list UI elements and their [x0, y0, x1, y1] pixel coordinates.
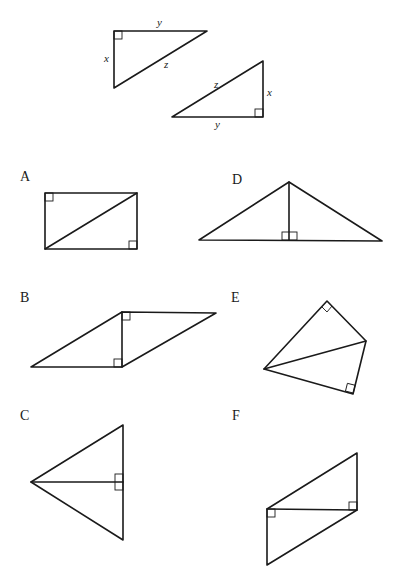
right-angle-marker [322, 306, 332, 312]
side-z-label: z [213, 78, 219, 90]
right-angle-marker [267, 509, 275, 517]
figure-f: F [232, 408, 357, 565]
figure-d-label: D [232, 172, 242, 187]
congruent-triangles-diagram: y x z z x y A D B E [0, 0, 395, 573]
right-angle-marker [129, 241, 137, 249]
right-angle-marker [255, 109, 263, 117]
figure-a-label: A [20, 169, 31, 184]
figure-e: E [231, 290, 366, 394]
figure-b-label: B [20, 290, 29, 305]
side-z-label: z [163, 58, 169, 70]
figure-c: C [20, 408, 123, 540]
right-angle-marker [349, 502, 357, 510]
reference-triangle-1: y x z [103, 16, 207, 88]
side-x-label: x [266, 86, 272, 98]
side-y-label: y [214, 118, 220, 130]
figure-f-label: F [232, 408, 240, 423]
side-x-label: x [103, 52, 109, 64]
figure-e-label: E [231, 290, 240, 305]
figure-d: D [199, 172, 382, 241]
figure-c-label: C [20, 408, 29, 423]
right-angle-marker [122, 312, 130, 320]
right-angle-marker [114, 359, 122, 367]
right-angle-marker [45, 193, 53, 201]
right-angle-marker [114, 31, 122, 39]
figure-a: A [20, 169, 137, 249]
reference-triangle-2: z x y [172, 61, 272, 130]
figure-b: B [20, 290, 216, 367]
side-y-label: y [156, 16, 162, 28]
